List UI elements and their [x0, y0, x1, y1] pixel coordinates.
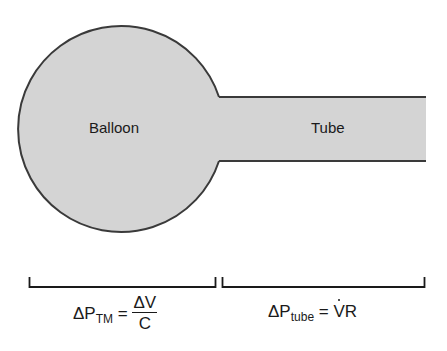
balloon-label: Balloon	[89, 119, 139, 136]
equals-sign: =	[319, 302, 329, 321]
equals-sign: =	[118, 304, 128, 323]
tm-subscript: TM	[96, 312, 113, 326]
tube-pressure-equation: ΔPtube = VR	[268, 303, 357, 320]
tube-bracket	[223, 277, 425, 287]
transmural-pressure-equation: ΔPTM = ΔV C	[73, 296, 157, 334]
balloon-tube-diagram	[0, 0, 447, 351]
volume-over-compliance-fraction: ΔV C	[132, 294, 157, 332]
tube-label: Tube	[311, 119, 345, 136]
fraction-denominator: C	[132, 313, 157, 332]
flow-v-dot: V	[333, 303, 344, 320]
fraction-numerator: ΔV	[132, 294, 157, 313]
delta-p-symbol: ΔP	[73, 304, 96, 323]
resistance-r: R	[345, 302, 357, 321]
balloon-bracket	[30, 277, 216, 287]
balloon-tube-shape	[18, 26, 426, 232]
tube-subscript: tube	[291, 310, 314, 324]
delta-p-symbol: ΔP	[268, 302, 291, 321]
